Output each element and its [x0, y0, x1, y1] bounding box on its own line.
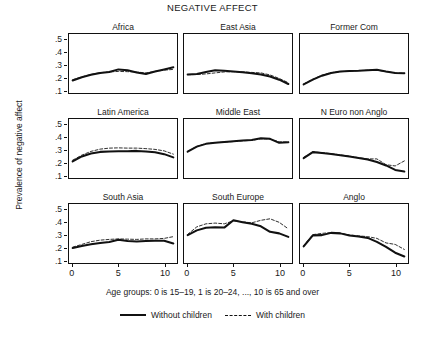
- y-tick-label: .2: [48, 159, 62, 168]
- y-tick-label: .2: [48, 244, 62, 253]
- panel-title-africa: Africa: [68, 22, 178, 32]
- y-tick-mark: [64, 52, 67, 53]
- x-tick-mark: [233, 264, 234, 267]
- panel-south-europe: [183, 203, 293, 264]
- panel-title-south-europe: South Europe: [183, 192, 293, 202]
- x-tick-mark: [72, 264, 73, 267]
- y-tick-label: .1: [48, 172, 62, 181]
- y-tick-mark: [64, 91, 67, 92]
- legend-label-with-children: With children: [256, 310, 305, 320]
- y-tick-label: .4: [48, 48, 62, 57]
- x-tick-label: 5: [111, 269, 125, 278]
- x-tick-label: 0: [180, 269, 194, 278]
- x-tick-mark: [187, 264, 188, 267]
- y-tick-label: .1: [48, 87, 62, 96]
- series-line-solid: [73, 67, 174, 80]
- x-tick-mark: [303, 264, 304, 267]
- x-tick-label: 0: [296, 269, 310, 278]
- y-tick-mark: [64, 137, 67, 138]
- y-tick-label: .3: [48, 146, 62, 155]
- x-tick-label: 5: [342, 269, 356, 278]
- y-tick-mark: [64, 150, 67, 151]
- y-tick-mark: [64, 235, 67, 236]
- y-tick-label: .5: [48, 35, 62, 44]
- y-tick-mark: [64, 78, 67, 79]
- x-tick-mark: [280, 264, 281, 267]
- y-tick-mark: [64, 222, 67, 223]
- panel-east-asia: [183, 33, 293, 94]
- legend-solid-line-icon: [120, 314, 146, 316]
- panel-title-anglo: Anglo: [299, 192, 409, 202]
- y-tick-label: .3: [48, 231, 62, 240]
- panel-former-com: [299, 33, 409, 94]
- panel-n-euro-non-anglo: [299, 118, 409, 179]
- x-tick-mark: [349, 264, 350, 267]
- y-tick-mark: [64, 65, 67, 66]
- y-tick-label: .4: [48, 133, 62, 142]
- y-tick-mark: [64, 261, 67, 262]
- y-tick-mark: [64, 248, 67, 249]
- panel-middle-east: [183, 118, 293, 179]
- y-tick-label: .3: [48, 61, 62, 70]
- y-tick-label: .2: [48, 74, 62, 83]
- x-tick-mark: [165, 264, 166, 267]
- series-line-solid: [188, 220, 289, 237]
- x-tick-mark: [118, 264, 119, 267]
- panel-title-south-asia: South Asia: [68, 192, 178, 202]
- panel-africa: [68, 33, 178, 94]
- series-line-solid: [304, 233, 405, 257]
- panel-title-east-asia: East Asia: [183, 22, 293, 32]
- y-tick-mark: [64, 209, 67, 210]
- panel-title-latin-america: Latin America: [68, 107, 178, 117]
- y-tick-label: .5: [48, 120, 62, 129]
- series-line-dashed: [73, 69, 174, 79]
- panel-anglo: [299, 203, 409, 264]
- x-axis-caption: Age groups: 0 is 15–19, 1 is 20–24, ...,…: [0, 287, 425, 297]
- x-tick-label: 10: [158, 269, 172, 278]
- panel-title-middle-east: Middle East: [183, 107, 293, 117]
- panel-south-asia: [68, 203, 178, 264]
- x-tick-label: 0: [65, 269, 79, 278]
- y-axis-label: Prevalence of negative affect: [14, 70, 24, 240]
- panel-latin-america: [68, 118, 178, 179]
- figure: NEGATIVE AFFECT Prevalence of negative a…: [0, 0, 425, 337]
- series-line-solid: [73, 240, 174, 248]
- legend-dashed-line-icon: [225, 315, 251, 316]
- series-line-solid: [188, 70, 289, 84]
- legend-item-without-children: Without children: [120, 310, 212, 320]
- y-tick-label: .5: [48, 205, 62, 214]
- series-line-dashed: [304, 152, 405, 166]
- y-tick-label: .1: [48, 257, 62, 266]
- x-tick-mark: [396, 264, 397, 267]
- panel-title-former-com: Former Com: [299, 22, 409, 32]
- y-tick-label: .4: [48, 218, 62, 227]
- chart-title: NEGATIVE AFFECT: [0, 2, 425, 13]
- legend: Without children With children: [0, 310, 425, 320]
- legend-item-with-children: With children: [225, 310, 305, 320]
- y-tick-mark: [64, 176, 67, 177]
- x-tick-label: 10: [389, 269, 403, 278]
- y-tick-mark: [64, 39, 67, 40]
- x-tick-label: 5: [226, 269, 240, 278]
- y-tick-mark: [64, 124, 67, 125]
- x-tick-label: 10: [273, 269, 287, 278]
- panel-title-n-euro-non-anglo: N Euro non Anglo: [299, 107, 409, 117]
- series-line-solid: [304, 152, 405, 171]
- legend-label-without-children: Without children: [151, 310, 212, 320]
- y-tick-mark: [64, 163, 67, 164]
